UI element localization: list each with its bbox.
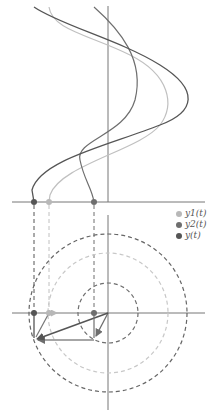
phasor-plot — [12, 215, 205, 410]
vector-y1 — [36, 313, 49, 337]
curve-y — [32, 7, 188, 202]
legend-item-y: y(t) — [176, 230, 206, 241]
time-dot-y2 — [91, 199, 97, 205]
legend-swatch-y1 — [176, 211, 182, 217]
phasor-dot-y2 — [91, 310, 97, 316]
projection-lines — [34, 205, 94, 313]
legend-swatch-y — [176, 233, 182, 239]
legend-item-y1: y1(t) — [176, 208, 206, 219]
time-dot-y1 — [46, 199, 52, 205]
legend: y1(t) y2(t) y(t) — [176, 208, 206, 241]
phasor-dot-y — [31, 310, 37, 316]
legend-item-y2: y2(t) — [176, 219, 206, 230]
time-dot-y — [31, 199, 37, 205]
time-plot — [12, 6, 205, 205]
legend-swatch-y2 — [176, 222, 182, 228]
phasor-dot-y1 — [46, 310, 52, 316]
legend-label-y1: y1(t) — [185, 208, 206, 219]
legend-label-y2: y2(t) — [185, 219, 206, 230]
legend-label-y: y(t) — [185, 230, 201, 241]
